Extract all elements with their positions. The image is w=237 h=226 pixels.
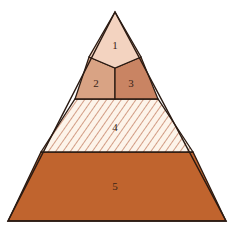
level-4-label: 4 [112, 121, 118, 133]
level-1-label: 1 [112, 39, 118, 51]
pyramid-diagram: 1 2 3 4 5 [0, 0, 237, 226]
level-5-label: 5 [112, 180, 118, 192]
level-2-label: 2 [93, 77, 99, 89]
level-3-label: 3 [128, 77, 134, 89]
